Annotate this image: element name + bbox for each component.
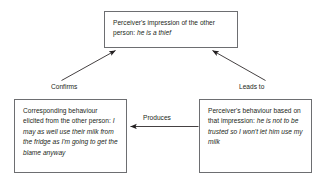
node-perceiver-behaviour-text: Perceiver's behaviour based on that impr… <box>208 106 304 148</box>
node-impression-emphasis: he is a thief <box>137 29 171 36</box>
edge-label-leads-to: Leads to <box>239 82 264 91</box>
node-corresponding-lead: Corresponding behaviour elicited from th… <box>23 107 113 124</box>
edge-label-confirms: Confirms <box>51 82 77 91</box>
arrow-confirms <box>62 51 116 81</box>
node-perceiver-behaviour: Perceiver's behaviour based on that impr… <box>199 99 312 173</box>
arrow-leads-to <box>213 51 266 81</box>
node-corresponding-text: Corresponding behaviour elicited from th… <box>23 106 119 158</box>
node-perceiver-impression: Perceiver's impression of the other pers… <box>104 11 238 48</box>
node-corresponding-behaviour: Corresponding behaviour elicited from th… <box>14 99 127 173</box>
edge-label-produces: Produces <box>143 113 171 122</box>
node-impression-text: Perceiver's impression of the other pers… <box>113 18 230 39</box>
diagram-canvas: Perceiver's impression of the other pers… <box>0 0 325 182</box>
